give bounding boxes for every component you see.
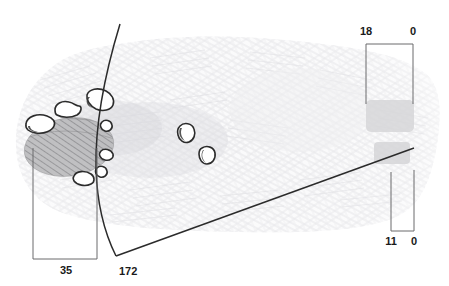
bean-left-large bbox=[26, 115, 55, 133]
figure-root: 18 0 11 0 35 172 bbox=[0, 0, 449, 286]
block-upper-right bbox=[366, 100, 414, 132]
figure-canvas: 18 0 11 0 35 172 bbox=[0, 0, 449, 286]
bean-lower-left bbox=[73, 172, 94, 186]
bean-center-lower bbox=[199, 147, 215, 164]
bottom-right-dim-right-label: 0 bbox=[411, 235, 417, 247]
bottom-right-dim-left-label: 11 bbox=[385, 235, 397, 247]
top-right-dim-left-label: 18 bbox=[360, 25, 372, 37]
curve-angle-label: 172 bbox=[119, 265, 137, 277]
top-right-dim-right-label: 0 bbox=[410, 25, 416, 37]
bottom-left-dim-label: 35 bbox=[60, 264, 72, 276]
bean-small-upper bbox=[101, 120, 113, 131]
bean-small-mid bbox=[100, 149, 114, 160]
